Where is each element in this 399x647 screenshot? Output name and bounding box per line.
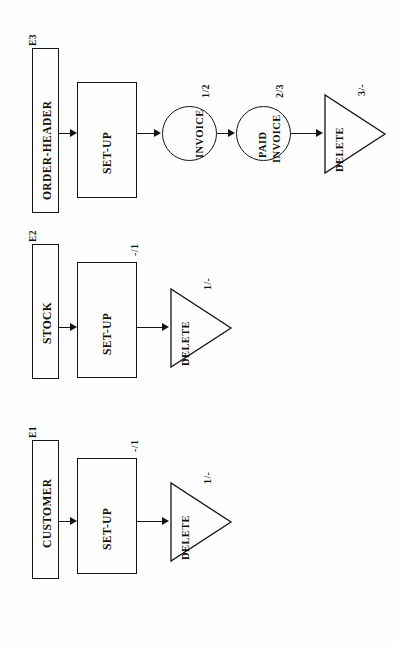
arrowhead-e2-2 xyxy=(162,323,169,331)
arrowhead-e3-3 xyxy=(228,129,235,137)
terminal-label-e1-delete: DELETE xyxy=(180,515,191,560)
process-state-e2-setup: -/1 xyxy=(129,244,140,256)
arrowhead-e3-2 xyxy=(154,129,161,137)
state-count-invoice: 1/2 xyxy=(200,84,211,98)
state-label-invoice: INVOICE xyxy=(194,109,206,158)
connector-e3-setup-invoice xyxy=(137,133,155,134)
arrowhead-e3-4 xyxy=(316,129,323,137)
arrowhead-e1-2 xyxy=(162,517,169,525)
diagram-canvas: E3 ORDER-HEADER SET-UP INVOICE 1/2 PAID … xyxy=(0,0,399,647)
arrowhead-e3-1 xyxy=(70,129,77,137)
lane-label-e3: E3 xyxy=(28,34,38,46)
lane-label-e2: E2 xyxy=(28,230,38,242)
lane-label-e1: E1 xyxy=(28,426,38,438)
arrowhead-e1-1 xyxy=(70,517,77,525)
entity-label-customer: CUSTOMER xyxy=(41,479,53,548)
connector-e2-setup-delete xyxy=(137,327,163,328)
process-state-e1-setup: -/1 xyxy=(129,440,140,452)
entity-label-stock: STOCK xyxy=(41,302,53,344)
state-count-paid-invoice: 2/3 xyxy=(274,84,285,98)
terminal-state-e3-delete: 3/- xyxy=(356,84,367,96)
process-label-e3-setup: SET-UP xyxy=(101,132,113,174)
terminal-state-e1-delete: 1/- xyxy=(202,472,213,484)
arrowhead-e2-1 xyxy=(70,323,77,331)
terminal-label-e3-delete: DELETE xyxy=(334,127,345,172)
process-label-e1-setup: SET-UP xyxy=(101,508,113,550)
process-label-e2-setup: SET-UP xyxy=(101,313,113,355)
state-label-paid-invoice-line2: INVOICE xyxy=(271,114,283,163)
connector-e1-setup-delete xyxy=(137,521,163,522)
terminal-state-e2-delete: 1/- xyxy=(202,278,213,290)
state-label-paid-invoice-line1: PAID xyxy=(257,132,269,159)
terminal-label-e2-delete: DELETE xyxy=(180,321,191,366)
entity-label-order-header: ORDER-HEADER xyxy=(41,101,53,200)
connector-e3-paid-delete xyxy=(291,133,317,134)
state-circle-invoice xyxy=(162,106,217,161)
